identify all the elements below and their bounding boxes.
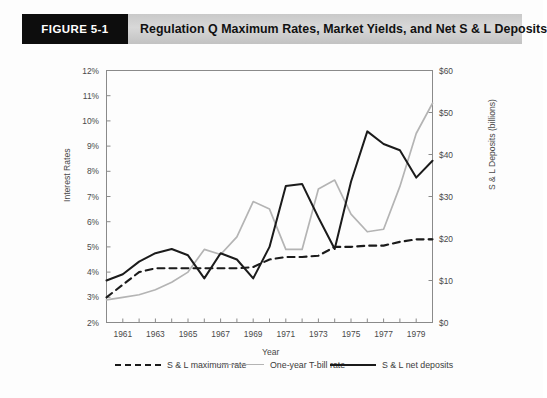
x-tick-label: 1971 [269, 329, 303, 339]
y-tick-label-left: 2% [73, 318, 99, 328]
x-tick-label: 1973 [301, 329, 335, 339]
x-tick-label: 1967 [204, 329, 238, 339]
y-tick-label-right: $0 [439, 318, 469, 328]
figure-number-block: FIGURE 5-1 [22, 14, 128, 44]
y-tick-label-right: $60 [439, 66, 469, 76]
chart-legend: S & L maximum rateOne-year T-bill rateS … [0, 352, 543, 378]
y-tick-label-left: 8% [73, 166, 99, 176]
y-tick-label-right: $50 [439, 108, 469, 118]
y-tick-label-right: $40 [439, 150, 469, 160]
y-tick-label-left: 5% [73, 242, 99, 252]
y-tick-label-left: 7% [73, 192, 99, 202]
x-axis-ticks [107, 319, 433, 323]
x-tick-label: 1977 [367, 329, 401, 339]
x-tick-label: 1975 [334, 329, 368, 339]
y-tick-label-right: $30 [439, 192, 469, 202]
y-tick-label-left: 4% [73, 267, 99, 277]
x-tick-label: 1979 [399, 329, 433, 339]
series-line [107, 131, 433, 280]
legend-item: S & L net deposits [330, 352, 453, 378]
gray-line-swatch [218, 360, 264, 370]
y-tick-label-left: 9% [73, 141, 99, 151]
legend-item: One-year T-bill rate [218, 352, 345, 378]
x-tick-label: 1963 [138, 329, 172, 339]
y-axis-left-ticks [107, 71, 111, 323]
y-tick-label-right: $20 [439, 234, 469, 244]
x-tick-label: 1969 [236, 329, 270, 339]
chart-area: Interest Rates S & L Deposits (billions)… [0, 52, 543, 398]
y-tick-label-left: 3% [73, 292, 99, 302]
axis-frame [107, 71, 433, 323]
data-series-layer [107, 103, 433, 300]
series-line [107, 103, 433, 300]
figure-banner: FIGURE 5-1 Regulation Q Maximum Rates, M… [22, 14, 522, 44]
y-tick-label-left: 12% [73, 66, 99, 76]
figure-title: Regulation Q Maximum Rates, Market Yield… [140, 14, 547, 44]
black-line-swatch [330, 360, 376, 370]
y-tick-label-left: 6% [73, 217, 99, 227]
y-tick-label-left: 11% [73, 91, 99, 101]
legend-label: S & L net deposits [382, 360, 453, 370]
y-tick-label-right: $10 [439, 276, 469, 286]
x-tick-label: 1961 [106, 329, 140, 339]
x-tick-label: 1965 [171, 329, 205, 339]
figure-number-label: FIGURE 5-1 [22, 14, 128, 44]
y-tick-label-left: 10% [73, 116, 99, 126]
y-axis-left-title: Interest Rates [62, 149, 72, 203]
y-axis-right-title: S & L Deposits (billions) [487, 99, 497, 190]
dashed-line-swatch [115, 360, 161, 370]
